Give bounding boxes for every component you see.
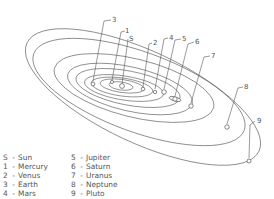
legend-name: Mars <box>18 189 36 198</box>
legend-separator: - <box>9 162 18 171</box>
callout-label: 4 <box>169 34 174 42</box>
jupiter-marker <box>162 90 167 95</box>
orbit-uranus <box>47 40 220 136</box>
legend-separator: - <box>77 153 86 162</box>
legend-name: Mercury <box>18 162 48 171</box>
legend-separator: - <box>77 180 86 189</box>
callout-label: 2 <box>153 39 157 47</box>
pluto-marker <box>247 159 251 163</box>
callout-label: 5 <box>182 35 186 43</box>
mercury-marker <box>110 80 113 83</box>
legend-name: Sun <box>18 153 32 162</box>
leader-pluto <box>249 121 255 158</box>
legend-column-1: S - Sun 1 - Mercury 2 - Venus 3 - Earth … <box>3 153 48 198</box>
callout-label: 9 <box>257 117 261 125</box>
legend-name: Earth <box>18 180 38 189</box>
legend-separator: - <box>77 162 86 171</box>
legend-name: Pluto <box>86 189 105 198</box>
legend-separator: - <box>9 180 18 189</box>
legend-name: Saturn <box>86 162 110 171</box>
legend-item-earth: 3 - Earth <box>3 180 48 189</box>
callout-label: S <box>129 35 134 43</box>
legend-separator: - <box>77 189 86 198</box>
sun-marker <box>120 84 125 89</box>
leader-earth <box>93 20 111 81</box>
leader-uranus <box>191 56 210 103</box>
legend-item-venus: 2 - Venus <box>3 171 48 180</box>
legend-separator: - <box>9 171 18 180</box>
legend-item-jupiter: 5 - Jupiter <box>71 153 118 162</box>
earth-marker <box>91 82 95 86</box>
legend-item-mercury: 1 - Mercury <box>3 162 48 171</box>
legend-name: Venus <box>18 171 40 180</box>
mars-marker <box>153 90 156 93</box>
legend-column-2: 5 - Jupiter 6 - Saturn 7 - Uranus 8 - Ne… <box>71 153 118 198</box>
legend-separator: - <box>77 171 86 180</box>
uranus-marker <box>189 104 193 108</box>
saturn-marker <box>173 97 177 101</box>
legend-name: Jupiter <box>86 153 110 162</box>
leader-lines <box>93 20 255 158</box>
legend-item-pluto: 9 - Pluto <box>71 189 118 198</box>
legend-item-neptune: 8 - Neptune <box>71 180 118 189</box>
legend-name: Uranus <box>86 171 112 180</box>
callout-label: 8 <box>244 83 248 91</box>
callout-label: 3 <box>112 16 116 24</box>
venus-marker <box>141 87 145 91</box>
legend-separator: - <box>9 189 18 198</box>
legend-item-saturn: 6 - Saturn <box>71 162 118 171</box>
legend-item-mars: 4 - Mars <box>3 189 48 198</box>
callout-label: 6 <box>195 38 200 46</box>
leader-saturn <box>175 42 194 96</box>
legend-name: Neptune <box>86 180 118 189</box>
callout-label: 7 <box>211 52 215 60</box>
neptune-marker <box>225 125 229 129</box>
planets <box>91 80 251 163</box>
legend-item-sun: S - Sun <box>3 153 48 162</box>
legend-item-uranus: 7 - Uranus <box>71 171 118 180</box>
legend-separator: - <box>9 153 18 162</box>
callout-label: 1 <box>125 27 129 35</box>
orbit-jupiter <box>73 61 184 115</box>
leader-neptune <box>227 87 243 124</box>
